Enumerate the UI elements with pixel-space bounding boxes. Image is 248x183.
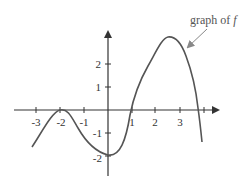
- function-curve: [32, 37, 202, 155]
- y-tick-label: -1: [93, 127, 102, 139]
- function-graph: -3 -2 -1 1 2 3 2 1 -1 -2 graph of f: [0, 0, 248, 183]
- x-tick-label: 3: [177, 116, 183, 128]
- graph-label-prefix: graph of: [190, 13, 233, 27]
- y-tick-label: 2: [96, 58, 102, 70]
- x-tick-label: -3: [31, 116, 41, 128]
- graph-label: graph of f: [190, 13, 238, 27]
- y-tick-label: -2: [93, 152, 102, 164]
- annotation-arrow: [188, 29, 207, 47]
- x-tick-label: -1: [79, 116, 88, 128]
- x-tick-label: 2: [152, 116, 158, 128]
- graph-label-function: f: [233, 13, 238, 27]
- x-tick-label: -2: [56, 116, 65, 128]
- y-tick-label: 1: [96, 81, 102, 93]
